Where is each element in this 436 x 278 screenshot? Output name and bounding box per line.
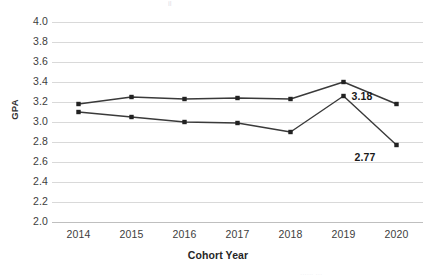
gpa-line-chart: jl GPA 4.03.83.63.43.23.02.82.62.42.22.0… [0, 0, 436, 278]
x-axis-tick-labels: 2014201520162017201820192020 [52, 228, 423, 244]
y-axis-tick-label: 2.0 [14, 216, 48, 227]
data-point-marker [288, 130, 292, 134]
series-line-2 [79, 96, 397, 145]
data-point-marker [182, 97, 186, 101]
x-axis-title: Cohort Year [0, 249, 436, 261]
y-axis-tick-label: 2.2 [14, 196, 48, 207]
y-axis-tick-label: 2.4 [14, 176, 48, 187]
y-axis-tick-label: 4.0 [14, 16, 48, 27]
y-axis-tick-label: 3.8 [14, 36, 48, 47]
y-axis-tick-label: 2.8 [14, 136, 48, 147]
data-point-marker [394, 102, 398, 106]
y-axis-tick-label: 3.0 [14, 116, 48, 127]
x-axis-tick-label: 2017 [215, 228, 261, 240]
data-label-3-18: 3.18 [352, 90, 373, 102]
clipped-artifact-bottom: ...... ... [300, 268, 410, 278]
y-axis-tick-label: 2.6 [14, 156, 48, 167]
data-label-2-77: 2.77 [355, 151, 376, 163]
plot-area [52, 22, 423, 222]
x-axis-tick-label: 2014 [56, 228, 102, 240]
data-point-marker [76, 102, 80, 106]
x-axis-tick-label: 2020 [374, 228, 420, 240]
y-axis-tick-label: 3.2 [14, 96, 48, 107]
data-point-marker [288, 97, 292, 101]
y-axis-tick-label: 3.4 [14, 76, 48, 87]
gridline [52, 222, 423, 223]
data-point-marker [235, 96, 239, 100]
x-axis-tick-label: 2015 [109, 228, 155, 240]
data-point-marker [394, 143, 398, 147]
clipped-artifact-top: jl [168, 0, 182, 6]
y-axis-tick-label: 3.6 [14, 56, 48, 67]
data-point-marker [76, 110, 80, 114]
y-axis-tick-labels: 4.03.83.63.43.23.02.82.62.42.22.0 [8, 0, 48, 278]
x-axis-tick-label: 2018 [268, 228, 314, 240]
x-axis-tick-label: 2016 [162, 228, 208, 240]
data-point-marker [182, 120, 186, 124]
data-point-marker [341, 94, 345, 98]
x-axis-tick-label: 2019 [321, 228, 367, 240]
data-point-marker [129, 115, 133, 119]
data-point-marker [235, 121, 239, 125]
series-svg [52, 22, 423, 222]
data-point-marker [129, 95, 133, 99]
data-point-marker [341, 80, 345, 84]
